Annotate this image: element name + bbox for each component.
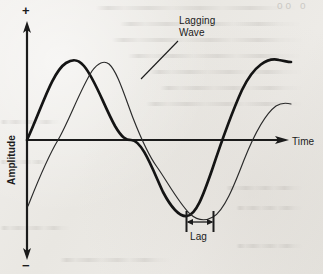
axis-group: [23, 21, 289, 260]
lagging-wave-leader-line: [141, 41, 178, 79]
lagging-wave-callout-label: Lagging Wave: [179, 15, 215, 39]
waveform-diagram: [0, 0, 323, 274]
y-axis-negative-marker: −: [22, 260, 30, 272]
lagging-wave-callout-line-1: Lagging: [179, 15, 215, 26]
x-axis-label: Time: [292, 136, 314, 148]
y-axis-label: Amplitude: [6, 129, 18, 191]
figure-page: oo o + − Amplitude Time: [0, 0, 323, 274]
lagging-wave-callout-line-2: Wave: [179, 27, 205, 38]
lag-label: Lag: [190, 231, 207, 243]
y-axis-positive-marker: +: [22, 5, 30, 17]
reference-wave-curve: [27, 59, 291, 216]
